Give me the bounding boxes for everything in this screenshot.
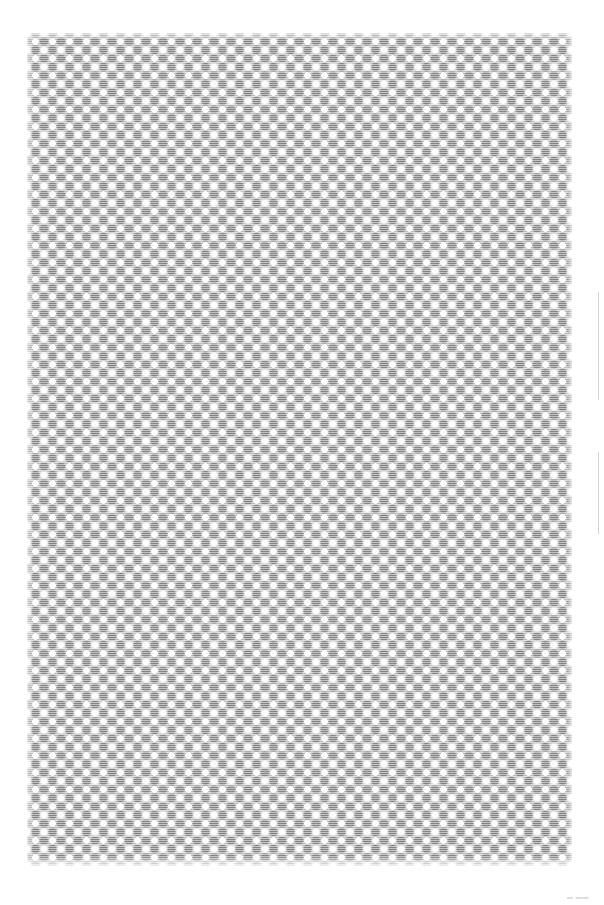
page-canvas: · ▬ ▬▬ [0,0,604,905]
dither-overlay [27,33,572,866]
scrollbar-thumb-segment[interactable] [598,452,599,534]
halftone-pattern-swatch [27,33,572,866]
corner-mark: · ▬ ▬▬ [562,893,589,901]
scrollbar-track-segment[interactable] [598,292,599,400]
